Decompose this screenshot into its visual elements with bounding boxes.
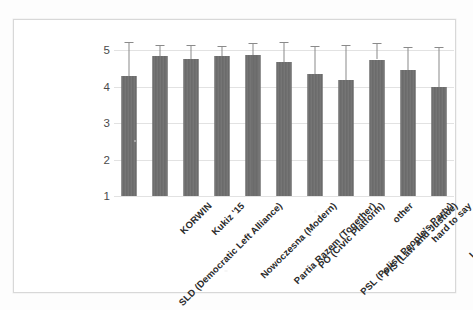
x-tick-label: PiS (Law and Justice) xyxy=(381,200,459,278)
error-bar xyxy=(129,42,130,76)
error-bar-cap xyxy=(218,46,227,47)
bar[interactable] xyxy=(153,56,168,196)
bar[interactable] xyxy=(215,56,230,196)
bar-group[interactable] xyxy=(145,50,176,196)
error-bar xyxy=(314,46,315,74)
bar-group[interactable] xyxy=(330,50,361,196)
error-bar xyxy=(191,45,192,59)
y-tick-label-5: 5 xyxy=(103,44,110,56)
bar-chart-figure: 12345 SLD (Democratic Left Alliance)KORW… xyxy=(0,0,473,310)
error-bar xyxy=(376,43,377,59)
bar-group[interactable] xyxy=(114,50,145,196)
error-bar xyxy=(438,47,439,86)
x-tick-label: hard to say xyxy=(429,200,473,244)
scan-speckle xyxy=(314,210,317,213)
bar[interactable] xyxy=(400,70,415,196)
error-bar-cap xyxy=(341,45,350,46)
bar[interactable] xyxy=(338,80,353,196)
y-axis: 12345 xyxy=(88,50,110,196)
plot-frame: 12345 SLD (Democratic Left Alliance)KORW… xyxy=(13,19,456,293)
error-bar-cap xyxy=(187,45,196,46)
error-bar xyxy=(253,43,254,55)
x-tick-label: Kukiz '15 xyxy=(209,200,246,237)
x-tick-label: I would not vote xyxy=(466,200,473,260)
bar[interactable] xyxy=(307,74,322,196)
bar[interactable] xyxy=(431,87,446,197)
scan-speckle xyxy=(134,140,136,142)
bar-group[interactable] xyxy=(207,50,238,196)
x-tick-label: other xyxy=(390,200,415,225)
error-bar xyxy=(345,45,346,80)
x-tick-label: SLD (Democratic Left Alliance) xyxy=(177,200,285,308)
bar[interactable] xyxy=(369,60,384,197)
plot-area xyxy=(114,50,454,196)
bars-layer xyxy=(114,50,454,196)
error-bar-cap xyxy=(403,47,412,48)
bar-group[interactable] xyxy=(423,50,454,196)
error-bar-cap xyxy=(279,42,288,43)
bar-group[interactable] xyxy=(176,50,207,196)
y-tick-label-1: 1 xyxy=(103,190,110,202)
bar-group[interactable] xyxy=(299,50,330,196)
error-bar-cap xyxy=(249,43,258,44)
error-bar-cap xyxy=(310,46,319,47)
error-bar-cap xyxy=(156,45,165,46)
x-tick-label: KORWIN xyxy=(178,200,214,236)
y-tick-label-4: 4 xyxy=(103,81,110,93)
y-tick-label-2: 2 xyxy=(103,154,110,166)
error-bar xyxy=(407,47,408,70)
scan-speckle xyxy=(224,270,228,272)
bar-group[interactable] xyxy=(392,50,423,196)
bar-group[interactable] xyxy=(269,50,300,196)
error-bar xyxy=(283,42,284,62)
bar[interactable] xyxy=(122,76,137,196)
x-tick-label: PO (Civic Platform) xyxy=(316,200,386,270)
error-bar-cap xyxy=(125,42,134,43)
x-tick-label: Nowoczesna (Modern) xyxy=(258,200,338,280)
error-bar xyxy=(222,46,223,56)
error-bar-cap xyxy=(434,47,443,48)
bar[interactable] xyxy=(184,59,199,196)
y-tick-label-3: 3 xyxy=(103,117,110,129)
gridline-1 xyxy=(114,196,454,197)
bar-group[interactable] xyxy=(361,50,392,196)
error-bar-cap xyxy=(372,43,381,44)
error-bar xyxy=(160,45,161,56)
bar[interactable] xyxy=(276,62,291,196)
bar[interactable] xyxy=(246,55,261,196)
bar-group[interactable] xyxy=(238,50,269,196)
x-tick-label: Partia Razem (Together) xyxy=(292,200,378,286)
x-tick-label: PSL (Polish People's Party) xyxy=(358,200,455,297)
